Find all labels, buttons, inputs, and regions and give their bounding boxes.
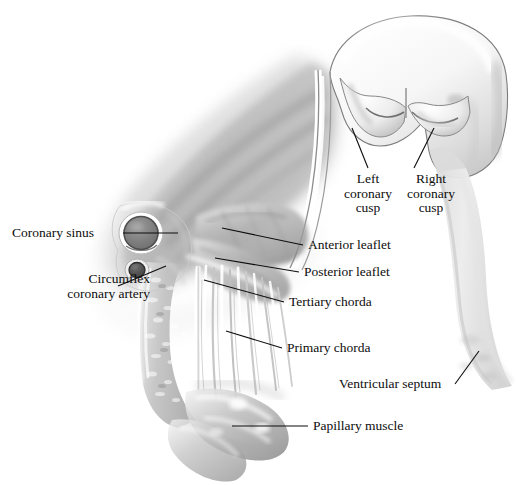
label-left-coronary-cusp: Left coronary cusp bbox=[334, 172, 402, 216]
label-text-line-1: Left bbox=[334, 172, 402, 187]
anatomy-artwork bbox=[0, 0, 516, 485]
label-coronary-sinus: Coronary sinus bbox=[12, 226, 94, 241]
label-anterior-leaflet: Anterior leaflet bbox=[308, 238, 391, 253]
label-right-coronary-cusp: Right coronary cusp bbox=[397, 172, 465, 216]
label-text-line-1: Circumflex bbox=[0, 272, 150, 287]
label-papillary-muscle: Papillary muscle bbox=[313, 419, 403, 434]
label-text-line-3: cusp bbox=[397, 201, 465, 216]
label-circumflex-coronary-artery: Circumflex coronary artery bbox=[0, 272, 150, 301]
label-text-line-2: coronary bbox=[397, 187, 465, 202]
label-posterior-leaflet: Posterior leaflet bbox=[304, 265, 390, 280]
label-tertiary-chorda: Tertiary chorda bbox=[289, 295, 372, 310]
label-ventricular-septum: Ventricular septum bbox=[339, 377, 441, 392]
label-text: Primary chorda bbox=[287, 340, 371, 355]
label-text: Anterior leaflet bbox=[308, 237, 391, 252]
label-text-line-2: coronary bbox=[334, 187, 402, 202]
label-text-line-2: coronary artery bbox=[0, 287, 150, 302]
label-text: Papillary muscle bbox=[313, 418, 403, 433]
label-primary-chorda: Primary chorda bbox=[287, 341, 371, 356]
label-text: Tertiary chorda bbox=[289, 294, 372, 309]
label-text: Posterior leaflet bbox=[304, 264, 390, 279]
label-text: Coronary sinus bbox=[12, 225, 94, 240]
label-text-line-1: Right bbox=[397, 172, 465, 187]
label-text: Ventricular septum bbox=[339, 376, 441, 391]
label-text-line-3: cusp bbox=[334, 201, 402, 216]
illustration-canvas: Coronary sinus Circumflex coronary arter… bbox=[0, 0, 516, 485]
